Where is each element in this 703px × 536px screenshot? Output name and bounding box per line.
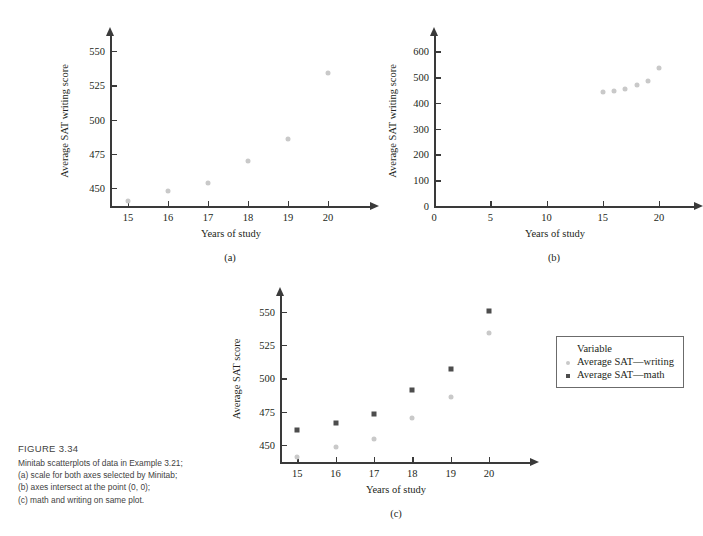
x-tick-label: 20 [484, 468, 495, 479]
data-point [295, 454, 300, 459]
y-tick [435, 77, 441, 78]
y-tick [281, 378, 287, 379]
x-tick [208, 201, 209, 206]
x-axis-title: Years of study [525, 228, 585, 239]
y-tick-label: 475 [250, 406, 275, 417]
x-tick [374, 457, 375, 462]
x-tick-label: 17 [203, 212, 214, 223]
y-tick [435, 51, 441, 52]
y-tick-label: 450 [250, 439, 275, 450]
y-tick [435, 129, 441, 130]
legend-item: Average SAT—writing [566, 355, 674, 368]
x-tick-label: 5 [488, 212, 493, 223]
x-tick [451, 457, 452, 462]
y-axis-title: Average SAT writing score [59, 64, 70, 178]
x-axis-arrow-icon [530, 458, 539, 466]
x-tick-label: 10 [541, 212, 552, 223]
data-point [645, 78, 650, 83]
y-tick [435, 103, 441, 104]
y-tick [111, 51, 117, 52]
scatterplot-a: 151617181920450475500525550Years of stud… [40, 14, 370, 269]
data-point [600, 90, 605, 95]
y-tick [281, 445, 287, 446]
x-axis-line [434, 206, 694, 208]
y-tick [435, 206, 441, 207]
data-point [333, 421, 338, 426]
legend-item: Average SAT—math [566, 368, 674, 381]
legend-title: Variable [566, 342, 674, 355]
y-tick-label: 600 [404, 46, 429, 57]
x-axis-line [110, 206, 370, 208]
y-axis-arrow-icon [276, 287, 284, 296]
legend-label: Average SAT—math [577, 368, 665, 381]
x-axis-title: Years of study [366, 484, 426, 495]
y-tick-label: 550 [250, 306, 275, 317]
data-point [333, 445, 338, 450]
legend-label: Average SAT—writing [577, 355, 674, 368]
y-tick-label: 100 [404, 175, 429, 186]
y-tick [111, 188, 117, 189]
x-tick [336, 457, 337, 462]
x-tick [328, 201, 329, 206]
y-tick-label: 500 [250, 373, 275, 384]
y-tick-label: 450 [80, 183, 105, 194]
data-point [371, 412, 376, 417]
data-point [126, 198, 131, 203]
y-tick [281, 345, 287, 346]
x-tick [168, 201, 169, 206]
y-tick-label: 525 [250, 340, 275, 351]
x-tick-label: 17 [369, 468, 380, 479]
x-tick-label: 16 [330, 468, 341, 479]
x-tick-label: 16 [163, 212, 174, 223]
data-point [448, 394, 453, 399]
x-axis-arrow-icon [694, 202, 703, 210]
data-point [612, 88, 617, 93]
data-point [286, 136, 291, 141]
caption-line-0: Minitab scatterplots of data in Example … [18, 457, 233, 469]
x-tick-label: 20 [654, 212, 665, 223]
data-point [295, 428, 300, 433]
data-point [410, 388, 415, 393]
data-point [634, 82, 639, 87]
legend-square-icon [566, 368, 577, 381]
legend-dot-icon [566, 355, 577, 368]
y-tick-label: 550 [80, 46, 105, 57]
x-tick-label: 19 [445, 468, 456, 479]
x-tick [248, 201, 249, 206]
data-point [246, 158, 251, 163]
figure-caption: FIGURE 3.34 Minitab scatterplots of data… [18, 443, 233, 506]
x-tick-label: 20 [323, 212, 334, 223]
data-point [623, 87, 628, 92]
x-axis-line [280, 462, 530, 464]
x-tick-label: 15 [123, 212, 134, 223]
y-tick [435, 180, 441, 181]
x-tick-label: 15 [292, 468, 303, 479]
y-tick [111, 120, 117, 121]
y-tick [111, 85, 117, 86]
y-axis-title: Average SAT writing score [387, 64, 398, 178]
panel-sublabel: (c) [390, 508, 402, 519]
data-point [206, 180, 211, 185]
data-point [166, 188, 171, 193]
panel-sublabel: (b) [548, 252, 560, 263]
y-axis-title: Average SAT score [231, 339, 242, 420]
y-tick [281, 312, 287, 313]
y-axis-line [110, 36, 112, 206]
data-point [486, 308, 491, 313]
x-tick [489, 457, 490, 462]
data-point [371, 437, 376, 442]
caption-line-1: (a) scale for both axes selected by Mini… [18, 469, 233, 481]
x-tick [412, 457, 413, 462]
y-axis-arrow-icon [430, 27, 438, 36]
x-tick [490, 201, 491, 206]
caption-line-3: (c) math and writing on same plot. [18, 494, 233, 506]
y-tick-label: 200 [404, 149, 429, 160]
y-tick-label: 475 [80, 148, 105, 159]
figure-number: FIGURE 3.34 [18, 443, 233, 454]
x-tick-label: 0 [431, 212, 436, 223]
x-tick-label: 19 [283, 212, 294, 223]
x-tick [288, 201, 289, 206]
x-axis-title: Years of study [201, 228, 261, 239]
y-tick-label: 500 [80, 114, 105, 125]
x-tick [547, 201, 548, 206]
